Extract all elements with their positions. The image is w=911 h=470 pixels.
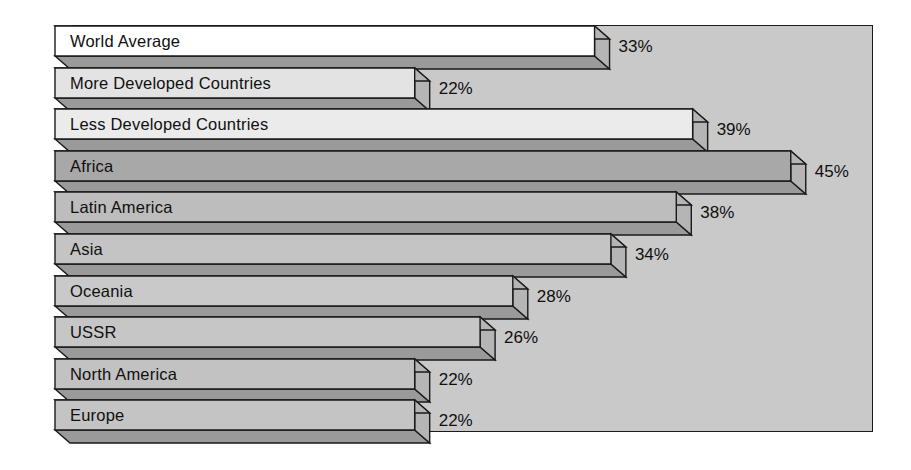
bar-value-label: 38%	[700, 203, 734, 223]
bar-category-label: USSR	[70, 322, 117, 342]
bar-category-label: World Average	[70, 31, 180, 51]
bar-category-label: Latin America	[70, 197, 173, 217]
bar-value-label: 22%	[439, 79, 473, 99]
bar-value-label: 45%	[815, 162, 849, 182]
bar-shape	[0, 400, 436, 449]
bar-category-label: Less Developed Countries	[70, 114, 268, 134]
bar-chart: World Average33%More Developed Countries…	[0, 0, 911, 470]
bar-value-label: 28%	[537, 287, 571, 307]
bars-layer: World Average33%More Developed Countries…	[0, 0, 911, 470]
bar-value-label: 22%	[439, 411, 473, 431]
bar-category-label: Oceania	[70, 281, 133, 301]
bar-category-label: Africa	[70, 156, 113, 176]
bar-value-label: 34%	[635, 245, 669, 265]
bar-value-label: 39%	[717, 120, 751, 140]
bar-category-label: More Developed Countries	[70, 73, 271, 93]
bar-category-label: North America	[70, 364, 177, 384]
bar-value-label: 33%	[619, 37, 653, 57]
bar-category-label: Asia	[70, 239, 103, 259]
bar-category-label: Europe	[70, 405, 124, 425]
bar-value-label: 26%	[504, 328, 538, 348]
bar-value-label: 22%	[439, 370, 473, 390]
